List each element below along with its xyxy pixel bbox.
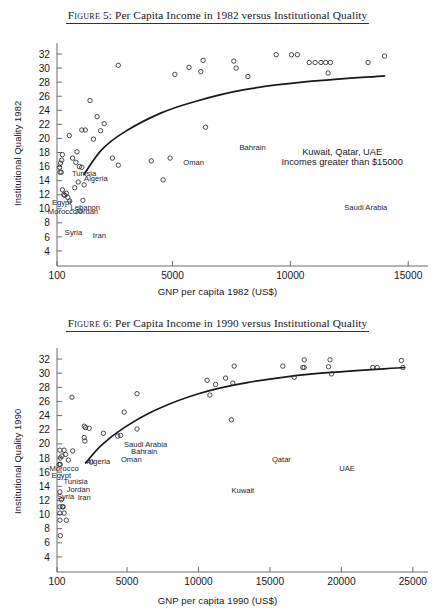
y-tick-label: 24 xyxy=(39,105,51,116)
data-point xyxy=(58,534,62,538)
data-point xyxy=(67,133,71,137)
y-tick-label: 20 xyxy=(39,438,51,449)
y-tick-label: 12 xyxy=(39,189,51,200)
data-point xyxy=(149,159,153,163)
figure-5-container: Figure 5: Per Capita Income in 1982 vers… xyxy=(0,0,435,308)
data-point xyxy=(161,178,165,182)
y-tick-label: 14 xyxy=(39,481,51,492)
x-tick-label: 15000 xyxy=(256,576,285,587)
data-point xyxy=(246,74,250,78)
data-point xyxy=(82,183,86,187)
y-tick-label: 28 xyxy=(39,77,51,88)
data-point xyxy=(295,53,299,57)
data-point xyxy=(203,125,207,129)
data-point xyxy=(62,448,66,452)
data-point xyxy=(116,163,120,167)
data-point xyxy=(229,418,233,422)
y-tick-label: 14 xyxy=(39,175,51,186)
y-tick-label: 8 xyxy=(44,217,50,228)
data-point xyxy=(70,395,74,399)
y-tick-label: 4 xyxy=(44,552,50,563)
figure-6-plot-area: 4681012141618202224262830321005000100001… xyxy=(0,308,435,615)
y-tick-label: 22 xyxy=(39,424,51,435)
point-label: Oman xyxy=(183,158,204,167)
data-point xyxy=(76,180,80,184)
data-point xyxy=(60,188,64,192)
y-tick-label: 30 xyxy=(39,368,51,379)
x-tick-label: 100 xyxy=(49,270,66,281)
figure-6-container: Figure 6: Per Capita Income in 1990 vers… xyxy=(0,308,435,615)
point-label: Qatar xyxy=(272,455,291,464)
data-point xyxy=(201,58,205,62)
data-point xyxy=(66,458,70,462)
data-point xyxy=(88,98,92,102)
x-tick-label: 10000 xyxy=(184,576,213,587)
y-tick-label: 12 xyxy=(39,495,51,506)
figure-6-y-axis-label: Institutional Quality 1990 xyxy=(12,409,23,514)
point-label: UAE xyxy=(339,464,355,473)
point-label: Oman xyxy=(121,455,142,464)
data-point xyxy=(223,376,227,380)
data-point xyxy=(234,66,238,70)
y-tick-label: 26 xyxy=(39,91,51,102)
y-tick-label: 6 xyxy=(44,232,50,243)
data-point xyxy=(101,431,105,435)
figure-5-plot-area: 4681012141618202224262830321005000100001… xyxy=(0,0,435,308)
chart-annotation: Kuwait, Qatar, UAE xyxy=(302,147,382,157)
data-point xyxy=(187,65,191,69)
data-point xyxy=(91,137,95,141)
data-point xyxy=(60,152,64,156)
x-tick-label: 15000 xyxy=(394,270,423,281)
y-tick-label: 18 xyxy=(39,147,51,158)
data-point xyxy=(232,364,236,368)
data-point xyxy=(326,365,330,369)
x-tick-label: 25000 xyxy=(399,576,428,587)
data-point xyxy=(205,378,209,382)
data-point xyxy=(324,60,328,64)
point-label: Iran xyxy=(93,231,106,240)
data-point xyxy=(122,410,126,414)
data-point xyxy=(307,60,311,64)
point-label: Kuwait xyxy=(231,486,255,495)
point-label: Iran xyxy=(78,493,91,502)
point-label: Algeria xyxy=(87,457,111,466)
y-tick-label: 22 xyxy=(39,119,51,130)
data-point xyxy=(74,160,78,164)
data-point xyxy=(328,60,332,64)
data-point xyxy=(328,358,332,362)
y-tick-label: 32 xyxy=(39,354,51,365)
data-point xyxy=(116,63,120,67)
data-point xyxy=(382,54,386,58)
data-point xyxy=(302,358,306,362)
point-label: Bahrain xyxy=(240,143,266,152)
data-point xyxy=(58,518,62,522)
data-point xyxy=(95,114,99,118)
data-point xyxy=(102,122,106,126)
y-tick-label: 20 xyxy=(39,133,51,144)
chart-annotation: Incomes greater than $15000 xyxy=(281,157,402,167)
y-tick-label: 10 xyxy=(39,509,51,520)
data-point xyxy=(173,72,177,76)
x-tick-label: 5000 xyxy=(116,576,139,587)
y-tick-label: 28 xyxy=(39,382,51,393)
data-point xyxy=(73,186,77,190)
x-tick-label: 10000 xyxy=(276,270,305,281)
y-tick-label: 32 xyxy=(39,49,51,60)
data-point xyxy=(135,427,139,431)
x-tick-label: 20000 xyxy=(327,576,356,587)
point-label: Jordan xyxy=(75,207,98,216)
data-point xyxy=(319,60,323,64)
point-label: Syria xyxy=(65,228,83,237)
data-point xyxy=(75,150,79,154)
y-tick-label: 18 xyxy=(39,453,51,464)
data-point xyxy=(57,165,61,169)
figure-6-x-axis-label: GNP per capita 1990 (US$) xyxy=(0,595,435,606)
y-tick-label: 4 xyxy=(44,246,50,257)
data-point xyxy=(281,364,285,368)
data-point xyxy=(213,382,217,386)
point-label: Syria xyxy=(57,492,75,501)
x-tick-label: 100 xyxy=(49,576,66,587)
figure-6-svg: 4681012141618202224262830321005000100001… xyxy=(0,308,435,615)
data-point xyxy=(326,71,330,75)
data-point xyxy=(289,53,293,57)
